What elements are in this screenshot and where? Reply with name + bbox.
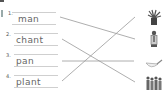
chanting-crowd-icon: [145, 74, 163, 92]
line-chant: [62, 39, 135, 82]
pan-icon: [145, 54, 163, 72]
potted-plant-icon: [145, 8, 163, 26]
man-icon: [145, 30, 163, 48]
line-man: [60, 17, 135, 39]
line-plant: [62, 17, 135, 81]
match-lines: [0, 0, 166, 95]
